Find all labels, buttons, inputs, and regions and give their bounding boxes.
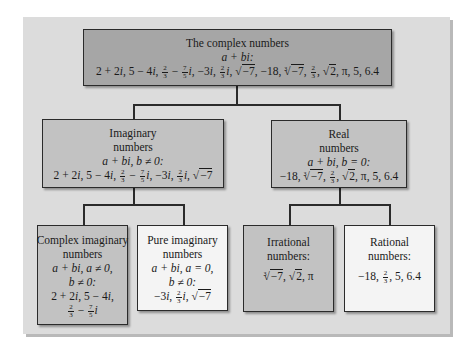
node-title: Irrational bbox=[267, 235, 310, 249]
connector bbox=[289, 204, 291, 225]
connector bbox=[83, 204, 85, 225]
connector bbox=[389, 204, 391, 225]
connector bbox=[183, 204, 185, 225]
node-examples: 3√−7, √2, π bbox=[264, 269, 314, 283]
node-examples: 2 + 2i, 5 − 4i, 23 − 75i, −3i, 23i, √−7,… bbox=[96, 64, 379, 80]
connector bbox=[236, 86, 238, 104]
node-form: a + bi, a = 0, bbox=[152, 261, 214, 275]
node-irrational-numbers: Irrational numbers: 3√−7, √2, π bbox=[243, 225, 334, 312]
connector bbox=[133, 104, 340, 106]
node-examples: −3i, 23i, √−7 bbox=[154, 289, 211, 305]
node-form: b ≠ 0: bbox=[69, 275, 96, 289]
node-title: Rational bbox=[370, 235, 409, 249]
node-complex-numbers: The complex numbers a + bi: 2 + 2i, 5 − … bbox=[83, 29, 392, 86]
node-examples: −18, 23, 5, 6.4 bbox=[358, 269, 421, 285]
node-form: a + bi, b ≠ 0: bbox=[102, 154, 163, 168]
node-title: numbers bbox=[163, 247, 203, 261]
node-real-numbers: Real numbers a + bi, b = 0: −18, 3√−7, 2… bbox=[271, 120, 407, 188]
node-form: a + bi: bbox=[221, 50, 253, 64]
node-title: Pure imaginary bbox=[147, 233, 218, 247]
node-rational-numbers: Rational numbers: −18, 23, 5, 6.4 bbox=[344, 225, 435, 312]
node-examples: 23 − 75i bbox=[67, 303, 97, 319]
node-form: a + bi, a ≠ 0, bbox=[52, 261, 112, 275]
node-imaginary-numbers: Imaginary numbers a + bi, b ≠ 0: 2 + 2i,… bbox=[42, 119, 224, 188]
node-form: b ≠ 0: bbox=[169, 275, 196, 289]
node-title: Real bbox=[328, 127, 349, 141]
connector bbox=[133, 104, 135, 120]
node-form: a + bi, b = 0: bbox=[308, 155, 371, 169]
node-examples: −18, 3√−7, 23, √2, π, 5, 6.4 bbox=[280, 169, 399, 185]
connector bbox=[339, 187, 341, 204]
node-title: numbers: bbox=[267, 249, 310, 263]
connector bbox=[83, 204, 184, 206]
node-title: Complex imaginary bbox=[37, 233, 129, 247]
node-title: numbers: bbox=[368, 249, 411, 263]
node-pure-imaginary-numbers: Pure imaginary numbers a + bi, a = 0, b … bbox=[137, 225, 228, 311]
connector bbox=[133, 187, 135, 204]
node-title: Imaginary bbox=[109, 126, 156, 140]
node-title: The complex numbers bbox=[186, 36, 289, 50]
node-title: numbers bbox=[319, 141, 359, 155]
connector bbox=[289, 204, 390, 206]
node-title: numbers bbox=[113, 140, 153, 154]
connector bbox=[339, 104, 341, 120]
node-examples: 2 + 2i, 5 − 4i, bbox=[51, 289, 114, 303]
node-complex-imaginary-numbers: Complex imaginary numbers a + bi, a ≠ 0,… bbox=[37, 225, 128, 325]
node-title: numbers bbox=[63, 247, 103, 261]
node-examples: 2 + 2i, 5 − 4i, 23 − 75i, −3i, 23i, √−7 bbox=[54, 168, 213, 184]
